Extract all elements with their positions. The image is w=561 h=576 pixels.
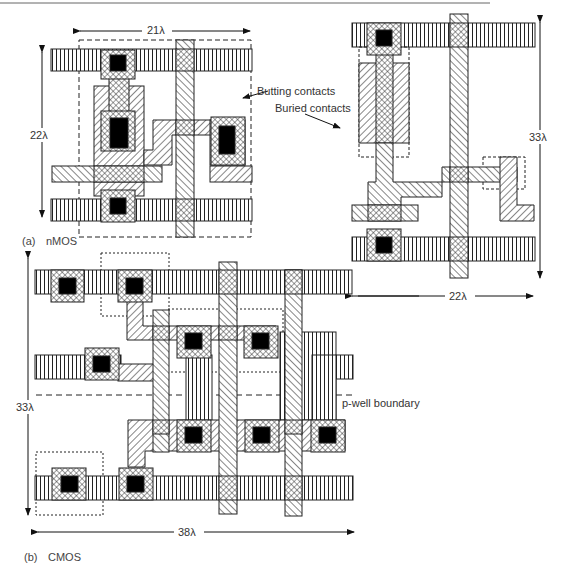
pwell-boundary-label: p-well boundary [342,397,420,409]
nmos-left-height-label: 22λ [30,129,48,141]
layout-figure: 21λ 22λ Butting contacts Buried contacts [0,0,561,576]
nmos-right-width-label: 22λ [449,290,467,302]
butting-contacts-label: Butting contacts [257,85,336,97]
buried-contacts-label: Buried contacts [275,102,351,114]
panel-b-caption: CMOS [48,551,81,563]
cmos-width-label: 38λ [178,526,196,538]
nmos-right-height-label: 33λ [529,131,547,143]
nmos-layout-left [28,24,252,237]
panel-b-prefix: (b) [24,551,37,563]
cmos-height-label: 33λ [16,401,34,413]
cmos-layout [14,253,419,539]
nmos-layout-right [352,14,554,303]
panel-a-caption: nMOS [46,235,77,247]
nmos-left-width-label: 21λ [147,24,165,36]
panel-a-prefix: (a) [22,235,35,247]
